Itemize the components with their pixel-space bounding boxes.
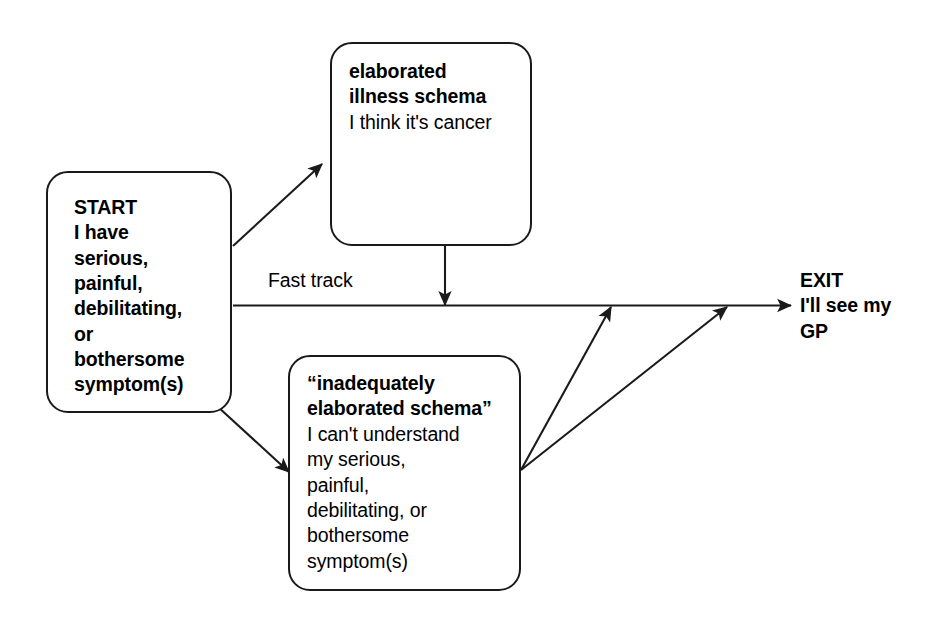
label-exit: EXIT I'll see my GP xyxy=(800,268,935,344)
node-elaborated-body: I think it's cancer xyxy=(349,110,529,135)
node-start[interactable]: START I have serious, painful, debilitat… xyxy=(46,171,232,413)
edge-label-fast-track: Fast track xyxy=(268,268,353,293)
node-inadequate-heading: “inadequately elaborated schema” xyxy=(307,371,517,422)
edge-inadequate-to-exit-b xyxy=(521,307,727,470)
node-start-text: START I have serious, painful, debilitat… xyxy=(74,195,230,398)
node-elaborated-illness-schema[interactable]: elaborated illness schema I think it's c… xyxy=(330,42,532,246)
edge-start-to-elaborated xyxy=(233,164,322,246)
edge-start-to-inadequate xyxy=(217,406,289,472)
edge-inadequate-to-exit-a xyxy=(521,307,611,470)
diagram-canvas: START I have serious, painful, debilitat… xyxy=(0,0,942,636)
node-inadequately-elaborated-schema[interactable]: “inadequately elaborated schema” I can't… xyxy=(288,355,521,591)
node-elaborated-heading: elaborated illness schema xyxy=(349,59,529,110)
node-inadequate-body: I can't understand my serious, painful, … xyxy=(307,422,517,574)
